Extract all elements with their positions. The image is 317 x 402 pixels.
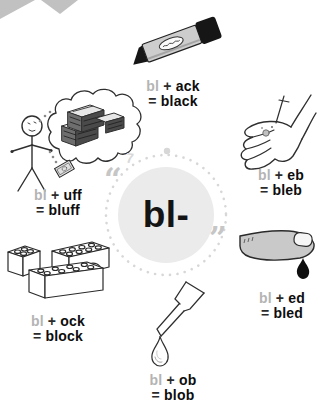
label-black-line2: = black xyxy=(127,94,219,109)
label-block-line2: = block xyxy=(12,329,104,344)
blood-drop-icon xyxy=(297,257,309,279)
label-bleb: bl + eb = bleb xyxy=(235,168,317,198)
liquid-blob xyxy=(152,336,168,366)
label-black: bl + ack = black xyxy=(127,79,219,109)
label-block: bl + ock = block xyxy=(12,314,104,344)
label-blob: bl + ob = blob xyxy=(127,373,219,402)
label-bleb-line1: bl + eb xyxy=(235,168,317,183)
bleeding-finger-icon xyxy=(240,231,314,279)
blend-title: bl- xyxy=(116,192,216,238)
stick-figure xyxy=(10,116,52,191)
label-bluff-line1: bl + uff xyxy=(12,188,104,203)
corner-ribbon xyxy=(0,0,78,19)
decorative-seven-mark: 7 xyxy=(125,150,134,167)
label-black-line1: bl + ack xyxy=(127,79,219,94)
label-blob-line2: = blob xyxy=(127,388,219,402)
marker-pen-icon xyxy=(127,16,222,69)
label-bluff: bl + uff = bluff xyxy=(12,188,104,218)
building-blocks-icon xyxy=(8,242,109,298)
phonics-blend-page: 7 “ ” bl- bl + ack = black bl + uff = bl… xyxy=(0,0,317,402)
blister-dot xyxy=(263,130,269,136)
label-bleb-line2: = bleb xyxy=(235,183,317,198)
label-bled-line1: bl + ed xyxy=(236,291,317,306)
fingernail xyxy=(293,232,312,247)
label-bluff-line2: = bluff xyxy=(12,203,104,218)
ring-top-dot xyxy=(164,148,170,154)
label-bled-line2: = bled xyxy=(236,306,317,321)
falling-bill-icon xyxy=(55,160,75,177)
hand-blister-icon xyxy=(241,95,316,169)
label-blob-line1: bl + ob xyxy=(127,373,219,388)
label-block-line1: bl + ock xyxy=(12,314,104,329)
dropper-drop-icon xyxy=(152,282,204,366)
label-bled: bl + ed = bled xyxy=(236,291,317,321)
